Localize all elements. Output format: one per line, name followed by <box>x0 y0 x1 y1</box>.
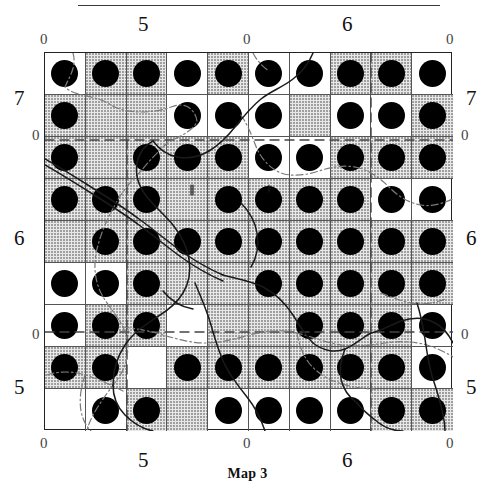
grid-cell <box>331 95 372 137</box>
presence-dot <box>51 312 78 339</box>
presence-dot <box>296 60 323 87</box>
grid-cell <box>249 95 290 137</box>
grid-cell <box>331 221 372 263</box>
presence-dot <box>51 60 78 87</box>
presence-dot <box>255 397 282 424</box>
grid-cell <box>167 95 208 137</box>
presence-dot <box>133 397 160 424</box>
grid-cell <box>208 53 249 95</box>
presence-dot <box>174 228 201 255</box>
grid-cell <box>127 263 168 305</box>
presence-dot <box>133 60 160 87</box>
presence-dot <box>174 144 201 171</box>
grid-cell <box>331 179 372 221</box>
grid-cell <box>208 179 249 221</box>
presence-dot <box>51 186 78 213</box>
presence-dot <box>337 228 364 255</box>
presence-dot <box>133 270 160 297</box>
figure-root: 00056000560076500765 <box>0 0 495 491</box>
axis-label-top: 5 <box>138 14 149 35</box>
presence-dot <box>337 60 364 87</box>
presence-dot <box>337 312 364 339</box>
axis-label-left: 6 <box>14 228 25 249</box>
presence-dot <box>419 354 446 381</box>
grid-cell <box>86 263 127 305</box>
presence-dot <box>378 354 405 381</box>
presence-dot <box>296 397 323 424</box>
grid-cell <box>86 95 127 137</box>
presence-dot <box>51 354 78 381</box>
axis-label-left: 7 <box>14 88 25 109</box>
grid-cell <box>331 263 372 305</box>
presence-dot <box>133 144 160 171</box>
grid-cell <box>290 95 331 137</box>
presence-dot <box>255 228 282 255</box>
presence-dot <box>51 102 78 129</box>
grid-cell <box>127 179 168 221</box>
presence-dot <box>378 397 405 424</box>
presence-dot <box>133 228 160 255</box>
figure-caption: Map 3 <box>0 466 495 482</box>
presence-dot <box>419 397 446 424</box>
presence-dot <box>92 354 119 381</box>
presence-dot <box>215 144 242 171</box>
presence-dot <box>296 312 323 339</box>
grid-cell <box>167 53 208 95</box>
axis-label-top: 0 <box>243 32 251 47</box>
grid-cell <box>412 179 453 221</box>
grid-cell <box>249 389 290 431</box>
presence-dot <box>419 102 446 129</box>
presence-dot <box>255 354 282 381</box>
grid-cell <box>371 305 412 347</box>
grid-cell <box>371 221 412 263</box>
axis-label-right: 5 <box>466 377 477 398</box>
grid-cell <box>331 347 372 389</box>
grid-cell <box>167 347 208 389</box>
grid-cell <box>45 305 86 347</box>
grid-cell <box>412 389 453 431</box>
grid-cell <box>45 263 86 305</box>
presence-dot <box>296 144 323 171</box>
presence-dot <box>296 186 323 213</box>
presence-dot <box>378 186 405 213</box>
grid-cell <box>86 53 127 95</box>
grid-cell <box>167 389 208 431</box>
axis-label-bottom: 0 <box>40 436 48 451</box>
grid-cell <box>45 53 86 95</box>
grid-cell <box>331 137 372 179</box>
grid-cell <box>208 347 249 389</box>
axis-label-bottom: 0 <box>446 436 454 451</box>
grid-cell <box>249 221 290 263</box>
grid-cell <box>208 95 249 137</box>
grid-cell <box>45 137 86 179</box>
axis-label-right: 7 <box>466 88 477 109</box>
presence-dot <box>378 144 405 171</box>
grid-cell <box>412 53 453 95</box>
presence-dot <box>378 312 405 339</box>
grid-cell <box>86 305 127 347</box>
grid-cell <box>371 263 412 305</box>
axis-label-left: 5 <box>14 377 25 398</box>
axis-label-left: 0 <box>32 327 40 342</box>
grid-cell <box>86 389 127 431</box>
grid-cell <box>290 221 331 263</box>
grid-cell <box>371 347 412 389</box>
grid-cell <box>290 347 331 389</box>
grid-cell <box>167 221 208 263</box>
grid-cell <box>45 221 86 263</box>
grid-cells <box>45 53 451 429</box>
grid-cell <box>371 95 412 137</box>
presence-dot <box>296 270 323 297</box>
grid-cell <box>127 53 168 95</box>
presence-dot <box>215 354 242 381</box>
grid-cell <box>127 305 168 347</box>
grid-cell <box>127 137 168 179</box>
presence-dot <box>92 60 119 87</box>
presence-dot <box>337 270 364 297</box>
presence-dot <box>378 60 405 87</box>
presence-dot <box>174 102 201 129</box>
grid-cell <box>45 95 86 137</box>
presence-dot <box>296 354 323 381</box>
grid-cell <box>331 389 372 431</box>
grid-cell <box>412 137 453 179</box>
